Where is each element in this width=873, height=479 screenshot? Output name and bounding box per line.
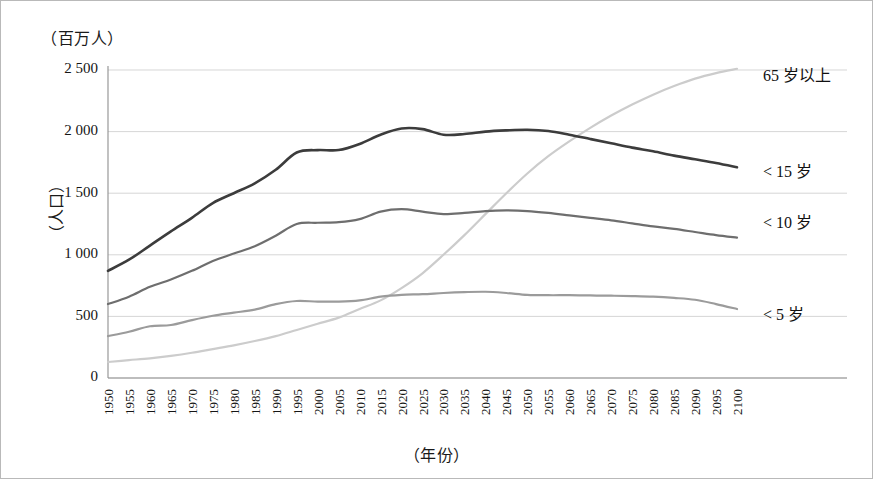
- y-tick-label: 1 000: [64, 245, 98, 261]
- y-tick-label: 0: [91, 368, 99, 384]
- chart-figure: （百万人） （人口） 05001 0001 5002 0002 500 1950…: [0, 0, 873, 479]
- x-tick-label: 1995: [290, 389, 305, 415]
- series-label: < 5 岁: [763, 306, 804, 323]
- x-tick-label: 2005: [332, 389, 347, 415]
- x-axis-tick-labels: 1950195519601965197019751980198519901995…: [101, 389, 745, 415]
- x-tick-label: 2095: [709, 389, 724, 415]
- series-label: < 10 岁: [763, 214, 812, 231]
- series-line: [108, 292, 737, 336]
- x-tick-label: 1990: [269, 389, 284, 415]
- x-tick-label: 2025: [416, 389, 431, 415]
- x-tick-label: 1970: [185, 389, 200, 415]
- x-tick-label: 2035: [457, 389, 472, 415]
- x-tick-label: 2080: [646, 389, 661, 415]
- x-tick-label: 2065: [583, 389, 598, 415]
- x-tick-label: 2075: [625, 389, 640, 415]
- series-label: < 15 岁: [763, 163, 812, 180]
- x-tick-label: 2030: [436, 389, 451, 415]
- x-tick-label: 2060: [562, 389, 577, 415]
- x-tick-label: 2085: [667, 389, 682, 415]
- x-tick-label: 1985: [248, 389, 263, 415]
- gridlines: [108, 70, 847, 378]
- x-tick-label: 2045: [499, 389, 514, 415]
- x-tick-label: 1955: [122, 389, 137, 415]
- x-tick-label: 2015: [374, 389, 389, 415]
- x-tick-label: 2050: [520, 389, 535, 415]
- x-axis-title: （年份）: [1, 442, 872, 466]
- x-tick-label: 2055: [541, 389, 556, 415]
- series-label: 65 岁以上: [763, 67, 831, 84]
- y-tick-label: 2 500: [64, 60, 98, 76]
- y-tick-label: 500: [76, 307, 99, 323]
- data-series: [108, 69, 737, 362]
- x-tick-label: 1975: [206, 389, 221, 415]
- x-tick-label: 1965: [164, 389, 179, 415]
- x-tick-label: 2090: [688, 389, 703, 415]
- x-tick-label: 1960: [143, 389, 158, 415]
- y-tick-label: 2 000: [64, 122, 98, 138]
- x-tick-label: 2070: [604, 389, 619, 415]
- series-line: [108, 128, 737, 271]
- x-tick-label: 2020: [395, 389, 410, 415]
- x-tick-label: 2040: [478, 389, 493, 415]
- y-tick-label: 1 500: [64, 184, 98, 200]
- x-tick-label: 2100: [730, 389, 745, 415]
- series-labels: 65 岁以上< 15 岁< 10 岁< 5 岁: [763, 67, 831, 323]
- x-tick-label: 1950: [101, 389, 116, 415]
- population-line-chart: 05001 0001 5002 0002 500 195019551960196…: [1, 1, 873, 479]
- x-tick-label: 1980: [227, 389, 242, 415]
- x-tick-label: 2000: [311, 389, 326, 415]
- y-axis-tick-labels: 05001 0001 5002 0002 500: [64, 60, 98, 384]
- x-tick-label: 2010: [353, 389, 368, 415]
- series-line: [108, 209, 737, 304]
